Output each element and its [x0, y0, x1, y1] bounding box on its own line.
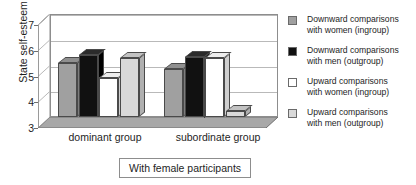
tick-mark-6: [34, 51, 38, 52]
bar-subordinate-group-series-2: [205, 58, 224, 117]
legend-swatch-icon-0: [288, 16, 297, 25]
legend-label-1: Downward comparisonswith men (outgroup): [307, 45, 416, 67]
bar-subordinate-group-series-0: [164, 69, 183, 117]
bar-subordinate-group-series-3: [226, 111, 245, 117]
legend-label-3: Upward comparisonswith men (outgroup): [307, 107, 416, 129]
chart-legend: Downward comparisonswith women (ingroup)…: [288, 14, 416, 138]
bar-face: [205, 58, 224, 117]
legend-item-1[interactable]: Downward comparisonswith men (outgroup): [288, 45, 416, 67]
bar-dominant-group-series-2: [99, 78, 118, 117]
legend-label-2: Upward comparisonswith women (ingroup): [307, 76, 416, 98]
bar-side-face: [139, 53, 145, 117]
legend-swatch-icon-2: [288, 78, 297, 87]
bar-subordinate-group-series-1: [185, 57, 204, 118]
legend-label-0: Downward comparisonswith women (ingroup): [307, 14, 416, 36]
legend-swatch-icon-3: [288, 109, 297, 118]
x-axis-label-dominant-group: dominant group: [50, 131, 160, 143]
bar-face: [58, 63, 77, 117]
x-axis-label-subordinate-group: subordinate group: [158, 131, 278, 143]
bar-dominant-group-series-3: [120, 58, 139, 117]
bars-layer: [50, 14, 278, 117]
tick-mark-4: [34, 102, 38, 103]
bar-face: [120, 58, 139, 117]
y-tick-label-3: 3: [28, 123, 34, 134]
tick-mark-3: [34, 128, 38, 129]
bar-face: [79, 55, 98, 117]
tick-mark-7: [34, 25, 38, 26]
legend-item-0[interactable]: Downward comparisonswith women (ingroup): [288, 14, 416, 36]
bar-dominant-group-series-1: [79, 55, 98, 117]
bar-face: [99, 78, 118, 117]
chart-figure: State self-esteem 7 6 5 4 3: [0, 0, 416, 185]
y-tick-label-6: 6: [28, 46, 34, 57]
legend-item-2[interactable]: Upward comparisonswith women (ingroup): [288, 76, 416, 98]
legend-item-3[interactable]: Upward comparisonswith men (outgroup): [288, 107, 416, 129]
chart-caption: With female participants: [119, 158, 251, 178]
bar-face: [226, 111, 245, 117]
plot-area: 7 6 5 4 3: [38, 14, 278, 128]
y-tick-label-7: 7: [28, 20, 34, 31]
y-tick-label-5: 5: [28, 71, 34, 82]
legend-swatch-icon-1: [288, 47, 297, 56]
bar-face: [164, 69, 183, 117]
bar-dominant-group-series-0: [58, 63, 77, 117]
tick-mark-5: [34, 77, 38, 78]
y-tick-label-4: 4: [28, 97, 34, 108]
bar-face: [185, 57, 204, 118]
